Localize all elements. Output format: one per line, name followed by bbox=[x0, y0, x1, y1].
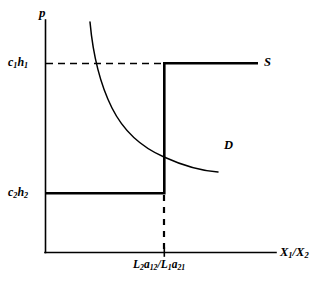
c1h1-h-sub: 1 bbox=[24, 61, 28, 70]
demand-curve bbox=[90, 22, 218, 172]
xtick-L2: L bbox=[133, 258, 140, 270]
plot-canvas bbox=[0, 0, 328, 290]
y-axis-label: p bbox=[39, 6, 46, 19]
x-axis-label-sub2: 2 bbox=[304, 250, 308, 260]
x-axis-label: X1/X2 bbox=[280, 246, 309, 260]
supply-demand-figure: p X1/X2 c1h1 c2h2 L2a12/L1a21 S D bbox=[0, 0, 328, 290]
y-tick-label-c1h1: c1h1 bbox=[8, 56, 28, 70]
x-tick-label-threshold: L2a12/L1a21 bbox=[133, 259, 185, 272]
y-tick-label-c2h2: c2h2 bbox=[8, 186, 28, 200]
demand-curve-label: D bbox=[224, 139, 233, 152]
xtick-L1: L bbox=[161, 258, 168, 270]
supply-curve bbox=[45, 63, 258, 193]
xtick-a21-sub: 21 bbox=[177, 263, 185, 272]
c2h2-h-sub: 2 bbox=[24, 191, 28, 200]
supply-curve-label: S bbox=[264, 56, 271, 69]
xtick-a12-sub: 12 bbox=[150, 263, 158, 272]
